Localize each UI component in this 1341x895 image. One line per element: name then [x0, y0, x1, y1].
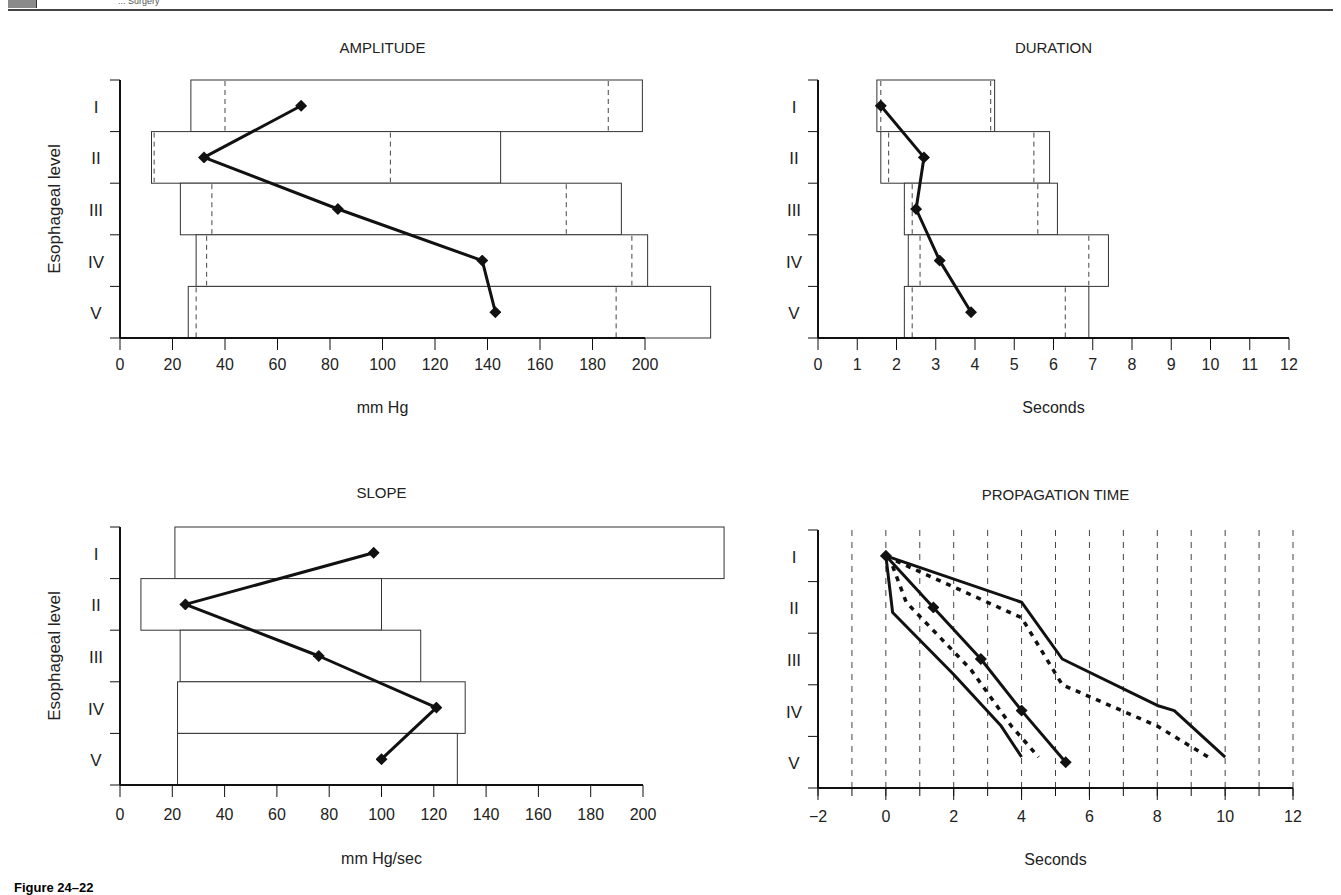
level-label: V: [90, 751, 102, 770]
x-axis-label: Seconds: [1022, 399, 1084, 416]
slope-chart: SLOPEIIIIIIIVVEsophageal level0204060801…: [45, 484, 724, 867]
x-axis-label: mm Hg: [357, 399, 409, 416]
x-tick-label: 180: [579, 356, 606, 373]
y-axis-label: Esophageal level: [45, 591, 64, 720]
x-tick-label: 140: [473, 806, 500, 823]
x-tick-label: 2: [949, 808, 958, 825]
x-tick-label: 100: [369, 356, 396, 373]
propagation-chart: PROPAGATION TIMEIIIIIIIVV−2024681012Seco…: [786, 486, 1302, 868]
range-bar: [191, 80, 643, 132]
level-label: III: [787, 651, 801, 670]
level-label: II: [789, 149, 798, 168]
range-bar: [904, 183, 1057, 235]
x-tick-label: 11: [1241, 356, 1258, 373]
level-label: I: [792, 548, 797, 567]
level-label: III: [89, 201, 103, 220]
x-tick-label: 3: [931, 356, 940, 373]
level-label: V: [788, 754, 800, 773]
level-label: I: [94, 98, 99, 117]
x-tick-label: 8: [1128, 356, 1137, 373]
range-bar: [178, 682, 466, 734]
x-tick-label: −2: [809, 808, 827, 825]
duration-title: DURATION: [1015, 39, 1092, 56]
figure-caption: Figure 24–22: [14, 880, 94, 895]
x-tick-label: 160: [525, 806, 552, 823]
level-label: IV: [786, 253, 803, 272]
level-label: II: [789, 599, 798, 618]
duration-chart: DURATIONIIIIIIIVV0123456789101112Seconds: [786, 39, 1298, 416]
x-tick-label: 40: [216, 356, 234, 373]
x-tick-label: 4: [1017, 808, 1026, 825]
range-bar: [904, 286, 1088, 338]
x-tick-label: 6: [1049, 356, 1058, 373]
level-label: IV: [786, 703, 803, 722]
x-tick-label: 200: [632, 356, 659, 373]
range-bar: [178, 733, 458, 785]
x-tick-label: 20: [163, 806, 181, 823]
level-label: V: [90, 304, 102, 323]
level-label: I: [792, 98, 797, 117]
x-tick-label: 120: [420, 806, 447, 823]
range-bar: [188, 286, 710, 338]
x-tick-label: 100: [368, 806, 395, 823]
x-tick-label: 20: [164, 356, 182, 373]
x-tick-label: 10: [1202, 356, 1220, 373]
x-tick-label: 12: [1284, 808, 1302, 825]
y-axis-label: Esophageal level: [45, 144, 64, 273]
x-tick-label: 9: [1167, 356, 1176, 373]
x-tick-label: 180: [577, 806, 604, 823]
x-tick-label: 12: [1280, 356, 1298, 373]
x-tick-label: 0: [116, 806, 125, 823]
amplitude-chart: AMPLITUDEIIIIIIIVVEsophageal level020406…: [45, 39, 711, 416]
x-tick-label: 120: [422, 356, 449, 373]
x-axis-label: Seconds: [1024, 851, 1086, 868]
x-tick-label: 40: [216, 806, 234, 823]
x-tick-label: 80: [320, 806, 338, 823]
x-tick-label: 5: [1010, 356, 1019, 373]
range-bar: [180, 183, 621, 235]
x-tick-label: 6: [1085, 808, 1094, 825]
x-tick-label: 10: [1216, 808, 1234, 825]
level-label: IV: [88, 253, 105, 272]
x-tick-label: 4: [971, 356, 980, 373]
x-tick-label: 0: [814, 356, 823, 373]
x-tick-label: 160: [527, 356, 554, 373]
level-label: V: [788, 304, 800, 323]
x-axis-label: mm Hg/sec: [341, 850, 422, 867]
range-bar: [196, 235, 648, 287]
x-tick-label: 8: [1153, 808, 1162, 825]
slope-title: SLOPE: [356, 484, 406, 501]
x-tick-label: 0: [881, 808, 890, 825]
x-tick-label: 7: [1088, 356, 1097, 373]
series-line: [893, 566, 1039, 757]
series-line: [896, 561, 1208, 757]
range-bar: [141, 579, 382, 631]
x-tick-label: 200: [630, 806, 657, 823]
level-label: I: [94, 545, 99, 564]
x-tick-label: 1: [853, 356, 862, 373]
range-bar: [180, 630, 421, 682]
x-tick-label: 80: [321, 356, 339, 373]
level-label: II: [91, 596, 100, 615]
range-bar: [175, 527, 724, 579]
level-label: III: [89, 648, 103, 667]
x-tick-label: 140: [474, 356, 501, 373]
x-tick-label: 0: [116, 356, 125, 373]
level-label: II: [91, 149, 100, 168]
propagation-title: PROPAGATION TIME: [982, 486, 1130, 503]
level-label: IV: [88, 700, 105, 719]
x-tick-label: 2: [892, 356, 901, 373]
x-tick-label: 60: [268, 806, 286, 823]
x-tick-label: 60: [269, 356, 287, 373]
range-bar: [881, 132, 1050, 184]
level-label: III: [787, 201, 801, 220]
amplitude-title: AMPLITUDE: [340, 39, 426, 56]
